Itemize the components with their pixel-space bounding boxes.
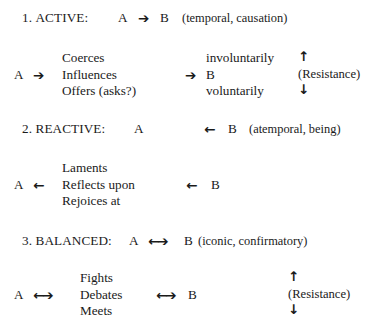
- heading-note: (iconic, confirmatory): [198, 234, 307, 249]
- heading-note: (temporal, causation): [182, 11, 287, 26]
- down-arrow-icon: ↓: [298, 82, 360, 99]
- section-number-label: 2. REACTIVE:: [22, 121, 105, 137]
- detail-block-active: A ➔ Coerces Influences Offers (asks?) ➔ …: [0, 50, 376, 102]
- verb-item: Meets: [80, 303, 122, 320]
- verb-item: Offers (asks?): [62, 83, 136, 100]
- detail-subject-a: A: [14, 177, 23, 193]
- verb-item: Rejoices at: [62, 193, 135, 210]
- section-heading-balanced: 3. BALANCED: A ←➔ B (iconic, confirmator…: [0, 231, 376, 251]
- object-item: voluntarily: [206, 83, 274, 100]
- heading-subject-a: A: [134, 121, 144, 137]
- verb-item: Laments: [62, 160, 135, 177]
- right-arrow-icon: ➔: [185, 69, 196, 83]
- section-number-label: 1. ACTIVE:: [22, 10, 88, 26]
- right-arrow-icon: ➔: [138, 12, 149, 26]
- bidirectional-arrow-icon: ←➔: [33, 289, 51, 303]
- verb-item: Reflects upon: [62, 177, 135, 194]
- verb-list: Fights Debates Meets: [80, 270, 122, 320]
- heading-subject-a: A: [118, 10, 128, 26]
- up-arrow-icon: ↑: [288, 269, 350, 286]
- bidirectional-arrow-icon: ←➔: [156, 289, 174, 303]
- verb-item: Influences: [62, 67, 136, 84]
- verb-list: Coerces Influences Offers (asks?): [62, 50, 136, 100]
- left-arrow-icon: ←: [204, 123, 215, 137]
- left-arrow-icon: ←: [33, 179, 44, 193]
- resistance-group: ↑ (Resistance) ↓: [298, 49, 360, 99]
- detail-block-reactive: A ← Laments Reflects upon Rejoices at ← …: [0, 160, 376, 212]
- verb-item: Fights: [80, 270, 122, 287]
- verb-list: Laments Reflects upon Rejoices at: [62, 160, 135, 210]
- heading-note: (atemporal, being): [249, 122, 341, 137]
- verb-item: Debates: [80, 287, 122, 304]
- heading-object-b: B: [184, 233, 193, 249]
- detail-block-balanced: A ←➔ Fights Debates Meets ←➔ B ↑ (Resist…: [0, 270, 376, 322]
- object-list: B: [188, 287, 197, 304]
- object-list: involuntarily B voluntarily: [206, 50, 274, 100]
- object-item: involuntarily: [206, 50, 274, 67]
- section-number-label: 3. BALANCED:: [22, 233, 112, 249]
- detail-subject-a: A: [14, 287, 23, 303]
- object-item: B: [188, 287, 197, 304]
- section-heading-active: 1. ACTIVE: A ➔ B (temporal, causation): [0, 8, 376, 28]
- object-item: B: [206, 67, 274, 84]
- resistance-label: (Resistance): [288, 286, 350, 303]
- object-list: B: [211, 177, 220, 194]
- resistance-group: ↑ (Resistance) ↓: [288, 269, 350, 319]
- heading-subject-a: A: [129, 233, 139, 249]
- up-arrow-icon: ↑: [298, 49, 360, 66]
- verb-item: Coerces: [62, 50, 136, 67]
- detail-subject-a: A: [14, 67, 23, 83]
- bidirectional-arrow-icon: ←➔: [148, 235, 166, 249]
- down-arrow-icon: ↓: [288, 302, 350, 319]
- interaction-modes-figure: 1. ACTIVE: A ➔ B (temporal, causation) A…: [0, 0, 376, 326]
- heading-object-b: B: [228, 121, 237, 137]
- object-item: B: [211, 177, 220, 194]
- section-heading-reactive: 2. REACTIVE: A ← B (atemporal, being): [0, 119, 376, 139]
- left-arrow-icon: ←: [186, 179, 197, 193]
- right-arrow-icon: ➔: [33, 69, 44, 83]
- heading-object-b: B: [160, 10, 169, 26]
- resistance-label: (Resistance): [298, 66, 360, 83]
